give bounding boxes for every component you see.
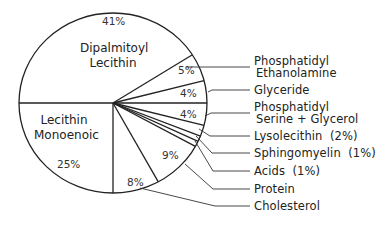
label-dipalmitoyl-lecithin: Dipalmitoyl Lecithin [80,41,146,71]
label-line: Monoenoic [34,128,94,143]
pie-slices [19,13,207,193]
pct-protein: 9% [162,149,179,161]
leader-glyceride [208,90,250,92]
label-protein: Protein [254,183,295,195]
label-sphingomyelin: Sphingomyelin (1%) [254,147,376,159]
leader-cholesterol [140,188,250,206]
label-line: Serine + Glycerol [256,113,358,125]
label-lysolecithin: Lysolecithin (2%) [254,130,358,142]
leader-ps [205,113,250,116]
label-phosphatidyl-ethanolamine: Phosphatidyl Ethanolamine [254,55,337,79]
leader-protein [185,164,250,189]
pct-ps: 4% [180,108,197,120]
pct-pe: 5% [178,64,195,76]
pct-dipalmitoyl: 41% [102,15,125,27]
label-line: Lecithin [34,113,94,128]
label-line: Ethanolamine [256,67,337,79]
label-glyceride: Glyceride [254,84,310,96]
label-cholesterol: Cholesterol [254,200,320,212]
pct-glyceride: 4% [180,87,197,99]
pct-cholesterol: 8% [127,176,144,188]
label-acids: Acids (1%) [254,165,320,177]
leader-sphingo [196,136,250,153]
pct-monoenoic: 25% [57,158,80,170]
label-line: Dipalmitoyl [80,41,146,56]
label-phosphatidyl-serine-glycerol: Phosphatidyl Serine + Glycerol [254,101,358,125]
leader-lyso [199,129,250,136]
label-line: Lecithin [80,56,146,71]
label-lecithin-monoenoic: Lecithin Monoenoic [34,113,94,143]
leader-acids [195,141,250,171]
